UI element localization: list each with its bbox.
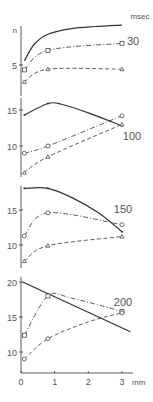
- panel-4-marker-circle: [22, 357, 26, 361]
- panel-3-marker-dot: [47, 187, 49, 189]
- panel-1-series-dashed: [24, 68, 122, 82]
- panel-3-series-solid: [24, 188, 122, 232]
- panel-3-label: 150: [114, 203, 132, 215]
- panel-2-y-tick-label: 10: [7, 142, 17, 152]
- panel-2-y-tick-label: 15: [7, 106, 17, 116]
- panel-2-marker-circle: [46, 144, 50, 148]
- panel-3-marker-dot: [121, 231, 123, 233]
- panel-2-marker-triangle: [120, 122, 124, 126]
- panel-4-label: 200: [114, 296, 132, 308]
- panel-1-marker-square: [22, 68, 26, 72]
- panel-4-y-tick-label: 20: [7, 278, 17, 288]
- panel-4-series-dashed: [24, 313, 122, 359]
- panel-1-y-tick-label: 5: [12, 61, 17, 71]
- panel-4-marker-square: [46, 294, 50, 298]
- x-tick-label: 1: [52, 377, 57, 387]
- panel-2-marker-dot: [23, 114, 25, 116]
- panel-3-marker-circle: [22, 234, 26, 238]
- panel-3-series-dashed: [24, 237, 122, 262]
- panel-1-series-solid: [24, 25, 122, 61]
- figure: 5n30msec101510010151501015202000123mm: [0, 0, 153, 402]
- panel-2-marker-circle: [22, 151, 26, 155]
- panel-4-marker-circle: [46, 337, 50, 341]
- panel-2-series-dashed: [24, 124, 122, 172]
- panel-3-series-dash-dot: [24, 213, 122, 236]
- panel-2-series-dash-dot: [24, 116, 122, 153]
- panel-3-marker-circle: [46, 211, 50, 215]
- x-axis-label: mm: [132, 378, 146, 387]
- panel-2-marker-dot: [47, 103, 49, 105]
- panel-4-marker-circle: [120, 311, 124, 315]
- panel-1-marker-triangle: [120, 67, 124, 71]
- panel-3-marker-triangle: [120, 235, 124, 239]
- panel-3-marker-circle: [120, 223, 124, 227]
- panel-1-marker-triangle: [46, 67, 50, 71]
- panel-4-marker-square: [22, 333, 26, 337]
- x-tick-label: 2: [86, 377, 91, 387]
- panel-4-series-dash-dot: [24, 293, 122, 335]
- panel-3-marker-triangle: [46, 244, 50, 248]
- panel-3-y-tick-label: 15: [7, 206, 17, 216]
- panel-2-marker-circle: [120, 114, 124, 118]
- panel-2-label: 100: [123, 130, 141, 142]
- panel-1-series-dash-dot: [24, 43, 122, 70]
- x-tick-label: 0: [18, 377, 23, 387]
- panel-3-y-tick-label: 10: [7, 241, 17, 251]
- x-tick-label: 3: [119, 377, 124, 387]
- panel-1-marker-square: [46, 48, 50, 52]
- panel-4-y-tick-label: 15: [7, 313, 17, 323]
- unit-label: msec: [130, 12, 149, 21]
- y-axis-label: n: [13, 26, 17, 35]
- panel-2-marker-triangle: [46, 155, 50, 159]
- panel-1-label: 30: [127, 35, 139, 47]
- panel-2-series-solid: [24, 103, 122, 126]
- panel-4-y-tick-label: 10: [7, 348, 17, 358]
- panel-3-marker-dot: [23, 187, 25, 189]
- panel-1-marker-square: [120, 41, 124, 45]
